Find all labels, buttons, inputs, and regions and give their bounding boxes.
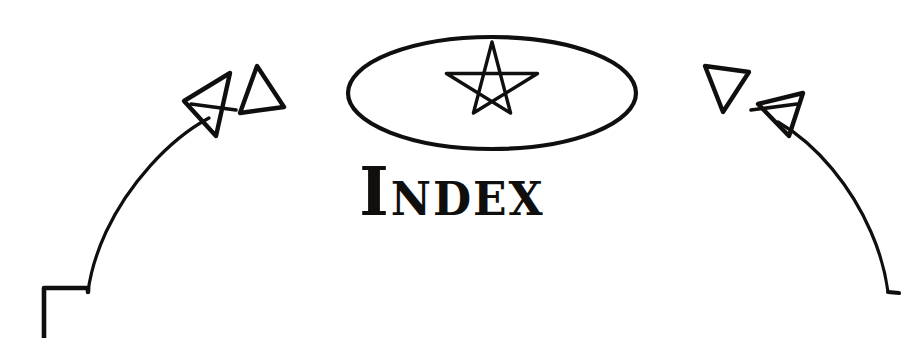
right-hook-foot [888, 292, 899, 293]
left-arc-group [44, 118, 209, 338]
page-title: Index [0, 158, 904, 226]
left-stepped-corner-bracket [44, 288, 88, 338]
index-header-page: Index [0, 0, 904, 338]
emblem-group [348, 37, 636, 149]
right-arrowhead-icon [751, 93, 803, 136]
pentagram-star-icon [446, 42, 537, 113]
left-triangle-icon [240, 66, 284, 113]
right-triangle-icon [705, 66, 749, 112]
emblem-ellipse [348, 37, 636, 149]
left-arrowhead-icon [184, 73, 236, 136]
